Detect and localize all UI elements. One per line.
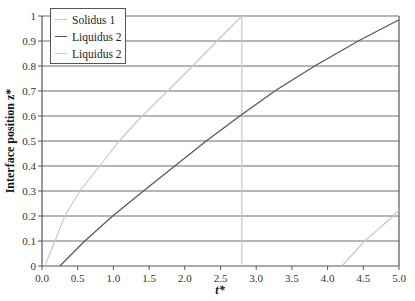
legend-label: Liquidus 2 — [72, 48, 122, 60]
y-tick-label: 1 — [31, 10, 37, 22]
y-tick-label: 0.3 — [22, 185, 36, 197]
legend-item-liquidus-2-dark: Liquidus 2 — [55, 29, 122, 44]
x-tick-label: 0.0 — [35, 272, 49, 284]
y-axis-title: Interface position z* — [3, 89, 17, 194]
x-tick-label: 5.0 — [392, 272, 406, 284]
legend-swatch-icon — [55, 19, 67, 20]
y-tick-label: 0.9 — [22, 35, 36, 47]
legend-item-solidus-1: Solidus 1 — [55, 12, 115, 27]
x-tick-label: 3.5 — [285, 272, 299, 284]
x-tick-label: 1.5 — [142, 272, 156, 284]
legend-item-liquidus-2-light: Liquidus 2 — [55, 46, 122, 61]
x-tick-label: 4.5 — [356, 272, 370, 284]
x-axis-title: t* — [215, 283, 225, 297]
y-tick-label: 0.6 — [22, 110, 36, 122]
x-tick-label: 1.0 — [107, 272, 121, 284]
y-tick-label: 0.5 — [22, 135, 36, 147]
y-tick-label: 0.1 — [22, 235, 36, 247]
legend: Solidus 1 Liquidus 2 Liquidus 2 — [50, 8, 126, 64]
legend-swatch-icon — [55, 36, 67, 37]
y-tick-label: 0.8 — [22, 60, 36, 72]
legend-swatch-icon — [55, 53, 67, 54]
x-tick-label: 4.0 — [321, 272, 335, 284]
x-tick-label: 3.0 — [249, 272, 263, 284]
y-tick-label: 0.7 — [22, 85, 36, 97]
x-tick-label: 0.5 — [71, 272, 85, 284]
y-tick-label: 0.4 — [22, 160, 36, 172]
legend-label: Solidus 1 — [72, 14, 115, 26]
x-tick-label: 2.0 — [178, 272, 192, 284]
legend-label: Liquidus 2 — [72, 31, 122, 43]
series-line-2 — [342, 210, 399, 266]
y-tick-label: 0 — [31, 260, 37, 272]
y-tick-label: 0.2 — [22, 210, 36, 222]
